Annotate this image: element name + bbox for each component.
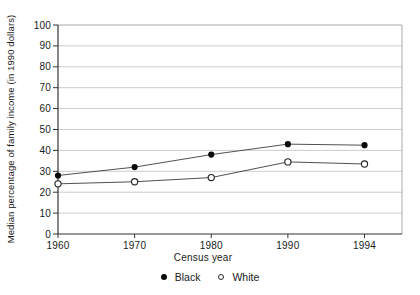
y-tick-label: 70	[18, 81, 51, 94]
legend: Black White	[0, 271, 420, 283]
series-line-black	[58, 144, 365, 175]
y-axis-title: Median percentage of family income (in 1…	[5, 15, 16, 244]
y-tick-label: 50	[18, 123, 51, 136]
y-tick-label: 90	[18, 39, 51, 52]
legend-label-black: Black	[175, 271, 201, 283]
data-point-black	[132, 164, 138, 170]
y-tick-label: 100	[18, 19, 51, 32]
y-tick-label: 60	[18, 102, 51, 115]
data-point-white	[361, 161, 367, 167]
y-tick-label: 40	[18, 144, 51, 157]
data-point-black	[55, 172, 61, 178]
filled-circle-icon	[161, 274, 167, 280]
data-point-white	[132, 179, 138, 185]
x-tick-label: 1990	[264, 239, 312, 252]
data-point-black	[285, 141, 291, 147]
x-tick-label: 1960	[34, 239, 82, 252]
x-axis-title: Census year	[174, 252, 232, 263]
y-tick-label: 10	[18, 207, 51, 220]
x-tick-label: 1980	[187, 239, 235, 252]
data-point-white	[55, 181, 61, 187]
legend-label-white: White	[232, 271, 259, 283]
income-line-chart-figure: Median percentage of family income (in 1…	[0, 0, 420, 295]
legend-item-white: White	[218, 271, 259, 283]
data-point-white	[208, 174, 214, 180]
y-tick-label: 20	[18, 186, 51, 199]
y-tick-label: 30	[18, 165, 51, 178]
open-circle-icon	[218, 274, 224, 280]
data-point-black	[208, 151, 214, 157]
y-tick-label: 80	[18, 60, 51, 73]
data-point-white	[285, 159, 291, 165]
x-tick-label: 1970	[111, 239, 159, 252]
x-tick-label: 1994	[341, 239, 389, 252]
legend-item-black: Black	[161, 271, 201, 283]
data-point-black	[361, 142, 367, 148]
